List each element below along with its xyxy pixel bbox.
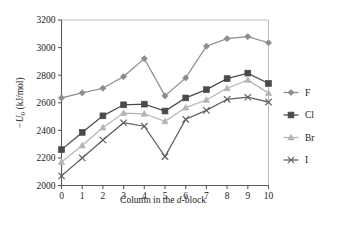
data-point-marker xyxy=(79,130,85,136)
data-point-marker xyxy=(204,87,210,93)
legend-item-label: F xyxy=(305,88,310,98)
data-point-marker xyxy=(59,147,65,153)
data-point-marker xyxy=(288,112,294,118)
y-tick-label: 2200 xyxy=(37,153,56,163)
y-tick-label: 3000 xyxy=(37,43,56,53)
x-axis-title: Column in the d-block xyxy=(120,195,206,205)
data-point-marker xyxy=(245,70,251,76)
x-tick-label: 0 xyxy=(59,191,64,201)
data-point-marker xyxy=(141,101,147,107)
data-point-marker xyxy=(100,113,106,119)
x-tick-label: 10 xyxy=(264,191,274,201)
legend-item-label: I xyxy=(305,155,308,165)
line-chart: 2000220024002600280030003200 01234567891… xyxy=(0,0,342,226)
y-tick-label: 3200 xyxy=(37,15,56,25)
y-tick-label: 2000 xyxy=(37,181,56,191)
x-tick-label: 2 xyxy=(101,191,106,201)
x-tick-label: 1 xyxy=(80,191,85,201)
x-tick-label: 9 xyxy=(245,191,250,201)
legend-item-label: Br xyxy=(305,133,315,143)
legend-item-label: Cl xyxy=(305,110,314,120)
data-point-marker xyxy=(121,102,127,108)
y-tick-label: 2400 xyxy=(37,126,56,136)
y-tick-label: 2600 xyxy=(37,98,56,108)
chart-figure: 2000220024002600280030003200 01234567891… xyxy=(0,0,342,226)
data-point-marker xyxy=(162,108,168,114)
data-point-marker xyxy=(224,76,230,82)
x-tick-label: 8 xyxy=(225,191,230,201)
y-tick-label: 2800 xyxy=(37,71,56,81)
data-point-marker xyxy=(266,81,272,87)
data-point-marker xyxy=(183,95,189,101)
svg-text:Column in the d-block: Column in the d-block xyxy=(120,195,206,205)
